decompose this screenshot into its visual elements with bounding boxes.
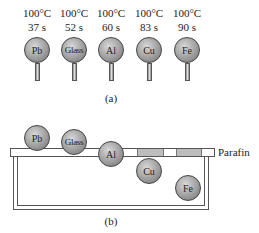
ball-label: Pb — [32, 133, 43, 144]
time-label-cu: 83 s — [129, 22, 169, 33]
ball-label: Cu — [143, 166, 155, 177]
ball-cu: Cu — [136, 37, 162, 63]
ball-label: Al — [106, 45, 116, 56]
ball-fe: Fe — [175, 175, 201, 201]
ball-label: Pb — [32, 45, 43, 56]
melted-parafin-segment — [176, 149, 202, 156]
ball-label: Glass — [65, 137, 84, 147]
temperature-label-pb: 100°C — [17, 8, 57, 19]
ball-label: Glass — [65, 45, 84, 55]
time-label-glass: 52 s — [54, 22, 94, 33]
ball-stem — [35, 63, 40, 81]
parafin-label: Parafin — [218, 146, 250, 158]
ball-pb: Pb — [24, 37, 50, 63]
temperature-label-al: 100°C — [91, 8, 131, 19]
ball-label: Cu — [143, 45, 155, 56]
ball-pb: Pb — [24, 125, 50, 151]
temperature-label-fe: 100°C — [167, 8, 207, 19]
caption-a: (a) — [96, 92, 126, 104]
caption-b: (b) — [96, 215, 126, 227]
ball-label: Al — [106, 149, 116, 160]
ball-label: Fe — [182, 45, 192, 56]
time-label-al: 60 s — [91, 22, 131, 33]
ball-cu: Cu — [136, 158, 162, 184]
ball-al: Al — [98, 141, 124, 167]
temperature-label-cu: 100°C — [129, 8, 169, 19]
temperature-label-glass: 100°C — [54, 8, 94, 19]
ball-stem — [185, 63, 190, 81]
ball-stem — [109, 63, 114, 81]
ball-glass: Glass — [61, 37, 87, 63]
ball-glass: Glass — [61, 129, 87, 155]
ball-fe: Fe — [174, 37, 200, 63]
ball-al: Al — [98, 37, 124, 63]
ball-stem — [147, 63, 152, 81]
ball-label: Fe — [183, 183, 193, 194]
time-label-pb: 37 s — [17, 22, 57, 33]
melted-parafin-segment — [137, 149, 164, 156]
time-label-fe: 90 s — [167, 22, 207, 33]
ball-stem — [72, 63, 77, 81]
